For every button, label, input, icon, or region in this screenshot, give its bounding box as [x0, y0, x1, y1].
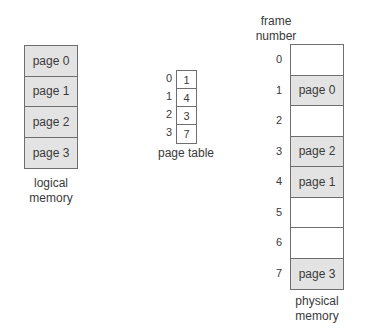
frame-4: page 1	[291, 167, 343, 198]
frame-number-5: 5	[270, 206, 282, 218]
frame-number-6: 6	[270, 236, 282, 248]
frame-2	[291, 106, 343, 137]
page-table-entry-3: 7	[177, 125, 196, 143]
page-table-entry-2: 3	[177, 107, 196, 125]
frame-5	[291, 198, 343, 229]
frame-1: page 0	[291, 76, 343, 107]
page-table-index-0: 0	[160, 72, 172, 84]
logical-page-0: page 0	[25, 46, 77, 77]
page-table-index-3: 3	[160, 126, 172, 138]
page-table-entry-1: 4	[177, 89, 196, 107]
page-table: 1 4 3 7	[176, 70, 197, 144]
logical-page-1: page 1	[25, 77, 77, 108]
page-table-index-2: 2	[160, 108, 172, 120]
frame-0	[291, 45, 343, 76]
caption-line: physical	[280, 294, 354, 309]
logical-memory: page 0 page 1 page 2 page 3	[24, 45, 78, 169]
caption-line: memory	[280, 309, 354, 324]
frame-6	[291, 228, 343, 259]
frame-number-header: frame number	[246, 14, 306, 44]
page-table-caption: page table	[146, 146, 226, 161]
frame-3: page 2	[291, 137, 343, 168]
logical-page-3: page 3	[25, 138, 77, 169]
header-line: number	[246, 29, 306, 44]
physical-memory: page 0 page 2 page 1 page 3	[290, 44, 344, 290]
frame-number-3: 3	[270, 145, 282, 157]
page-table-index-1: 1	[160, 90, 172, 102]
caption-line: logical	[14, 176, 88, 191]
frame-number-2: 2	[270, 114, 282, 126]
frame-number-0: 0	[270, 53, 282, 65]
header-line: frame	[246, 14, 306, 29]
frame-number-7: 7	[270, 267, 282, 279]
frame-number-4: 4	[270, 175, 282, 187]
physical-memory-caption: physical memory	[280, 294, 354, 324]
logical-page-2: page 2	[25, 107, 77, 138]
frame-7: page 3	[291, 259, 343, 290]
logical-memory-caption: logical memory	[14, 176, 88, 206]
page-table-entry-0: 1	[177, 71, 196, 89]
frame-number-1: 1	[270, 84, 282, 96]
caption-line: memory	[14, 191, 88, 206]
